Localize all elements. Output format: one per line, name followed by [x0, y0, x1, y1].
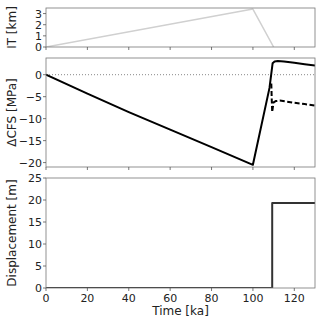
y-tick-label: 5	[35, 260, 42, 273]
x-axis-label: Time [ka]	[151, 304, 209, 318]
axes-frame	[46, 8, 315, 47]
y-tick-label: 0	[35, 69, 42, 82]
panel-delta-cfs: 0−5−10−15−20ΔCFS [MPa]	[5, 58, 315, 170]
y-tick-label: −15	[19, 135, 42, 148]
y-tick-label: −10	[19, 113, 42, 126]
x-tick-label: 120	[284, 292, 305, 305]
y-axis-label: Displacement [m]	[5, 179, 19, 286]
y-tick-label: −20	[19, 157, 42, 170]
y-tick-label: 25	[28, 172, 42, 185]
panel-displacement: 0510152025020406080100120Displacement [m…	[5, 172, 315, 318]
y-tick-label: 20	[28, 194, 42, 207]
figure: 0123IT [km] 0−5−10−15−20ΔCFS [MPa] 05101…	[0, 0, 322, 321]
y-tick-label: 3	[35, 8, 42, 21]
x-tick-label: 40	[122, 292, 136, 305]
series-line	[46, 9, 274, 47]
y-tick-label: 0	[35, 282, 42, 295]
axes-frame	[46, 178, 315, 288]
y-tick-label: 10	[28, 238, 42, 251]
y-tick-label: 2	[35, 19, 42, 32]
y-tick-label: 15	[28, 216, 42, 229]
y-tick-label: −5	[26, 91, 42, 104]
y-axis-label: ΔCFS [MPa]	[5, 78, 19, 146]
series-line	[271, 84, 315, 113]
panel-it-km: 0123IT [km]	[5, 6, 315, 54]
series-line	[46, 61, 315, 165]
x-tick-label: 20	[80, 292, 94, 305]
series-line	[46, 203, 315, 288]
y-axis-label: IT [km]	[5, 6, 19, 49]
x-tick-label: 0	[43, 292, 50, 305]
y-tick-label: 1	[35, 30, 42, 43]
x-tick-label: 100	[242, 292, 263, 305]
y-tick-label: 0	[35, 41, 42, 54]
